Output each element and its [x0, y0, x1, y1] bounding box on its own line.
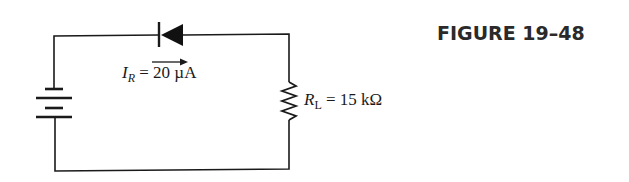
- diode-icon: [159, 22, 183, 47]
- wire-top-right: [183, 34, 289, 82]
- resistor-label: RL = 15 kΩ: [303, 90, 382, 112]
- wires: [54, 34, 289, 171]
- wire-right-bottom: [55, 117, 289, 171]
- battery-icon: [36, 89, 72, 117]
- current-label: IR = 20 µA: [121, 63, 197, 85]
- resistor-icon: [282, 82, 296, 120]
- circuit-diagram: IR = 20 µA RL = 15 kΩ FIGURE 19–48: [0, 0, 629, 182]
- figure-title: FIGURE 19–48: [437, 22, 585, 44]
